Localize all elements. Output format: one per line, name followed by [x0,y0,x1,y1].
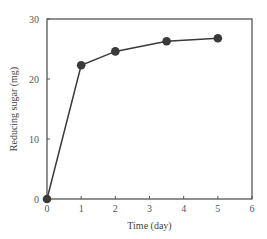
y-tick-label: 10 [29,134,39,145]
data-series [43,34,222,203]
y-tick-label: 20 [29,74,39,85]
x-tick-label: 0 [45,203,50,214]
x-tick-label: 1 [79,203,84,214]
data-point-marker [43,195,52,204]
plot-border [47,19,252,199]
data-point-marker [214,34,223,43]
x-axis-title: Time (day) [127,220,171,232]
x-tick-label: 6 [250,203,255,214]
x-tick-label: 2 [113,203,118,214]
data-point-marker [77,61,86,70]
data-point-marker [111,47,120,56]
y-axis-title: Reducing sugar (mg) [8,67,20,151]
x-tick-label: 3 [147,203,152,214]
series-line [47,38,218,199]
line-chart: 0102030 0123456 Time (day) Reducing suga… [0,0,267,239]
data-point-marker [162,37,171,46]
x-tick-label: 4 [181,203,186,214]
y-tick-label: 30 [29,14,39,25]
x-tick-label: 5 [215,203,220,214]
y-tick-label: 0 [34,194,39,205]
plot-frame [47,19,252,199]
